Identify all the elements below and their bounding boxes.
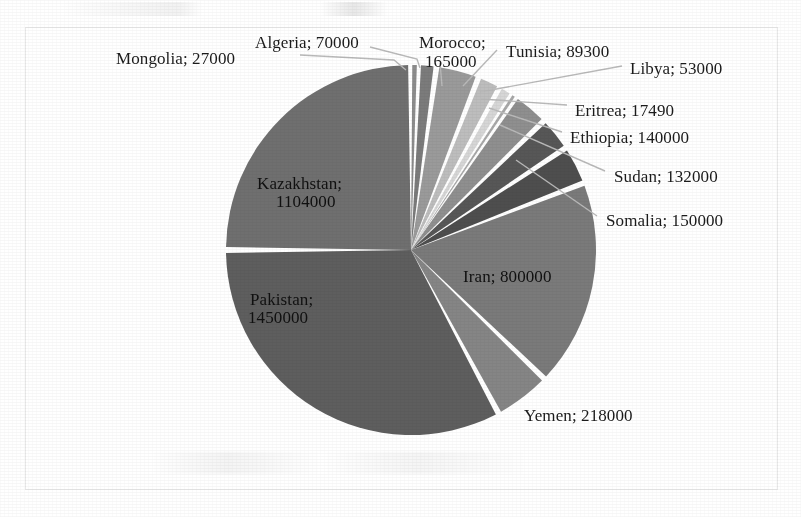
label-libya: Libya; 53000	[630, 59, 722, 78]
leader-line-algeria	[370, 47, 420, 68]
pie-slices	[226, 65, 596, 435]
label-tunisia: Tunisia; 89300	[506, 42, 609, 61]
label-algeria: Algeria; 70000	[255, 33, 359, 52]
label-pakistan-line1: Pakistan;	[250, 290, 313, 309]
label-yemen: Yemen; 218000	[524, 406, 633, 425]
label-sudan: Sudan; 132000	[614, 167, 718, 186]
label-somalia: Somalia; 150000	[606, 211, 723, 230]
label-kazakhstan-line2: 1104000	[276, 192, 336, 211]
pie-slice-kazakhstan	[226, 65, 411, 250]
label-eritrea: Eritrea; 17490	[575, 101, 674, 120]
label-morocco-line2: 165000	[425, 52, 477, 71]
leader-line-libya	[480, 66, 622, 92]
label-ethiopia: Ethiopia; 140000	[570, 128, 689, 147]
label-pakistan-line2: 1450000	[248, 308, 308, 327]
label-mongolia: Mongolia; 27000	[116, 49, 235, 68]
scanned-page: Mongolia; 27000 Algeria; 70000 Morocco; …	[0, 0, 801, 517]
label-morocco-line1: Morocco;	[419, 33, 486, 52]
label-iran: Iran; 800000	[463, 267, 552, 286]
label-kazakhstan-line1: Kazakhstan;	[257, 174, 342, 193]
